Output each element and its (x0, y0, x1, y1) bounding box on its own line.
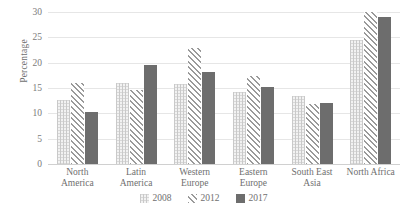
bar-2012 (364, 12, 377, 164)
bar-2012 (130, 90, 143, 164)
x-axis-tick-label: Eastern Europe (224, 167, 283, 189)
y-axis-tick-label: 15 (33, 83, 43, 93)
bar-2017 (320, 103, 333, 164)
bar-2017 (202, 72, 215, 164)
legend-swatch-icon (188, 194, 197, 203)
x-axis-tick-label: South East Asia (283, 167, 342, 189)
bar-2012 (71, 83, 84, 164)
bar-2008 (292, 96, 305, 164)
bar-2012 (247, 76, 260, 164)
y-axis-tick-label: 5 (37, 134, 42, 144)
legend-item-2008[interactable]: 2008 (140, 193, 172, 203)
y-axis-title: Percentage (19, 1, 29, 121)
legend-item-2012[interactable]: 2012 (188, 193, 220, 203)
bar-2008 (233, 92, 246, 164)
bar-group (283, 12, 342, 164)
bar-2008 (57, 100, 70, 164)
bar-2008 (174, 84, 187, 164)
bar-2017 (261, 87, 274, 164)
bar-group (341, 12, 400, 164)
x-axis-tick-label: Latin America (107, 167, 166, 189)
bar-2017 (144, 65, 157, 164)
bar-2017 (85, 112, 98, 164)
bar-2012 (306, 104, 319, 164)
bar-2012 (188, 48, 201, 164)
bar-2008 (116, 83, 129, 164)
y-axis-tick-label: 10 (33, 108, 43, 118)
y-axis-tick-label: 0 (37, 159, 42, 169)
bar-group (107, 12, 166, 164)
legend-label: 2008 (153, 193, 172, 203)
bar-2017 (378, 17, 391, 164)
x-axis-tick-label: North Africa (341, 167, 400, 189)
legend-swatch-icon (236, 194, 245, 203)
legend-item-2017[interactable]: 2017 (236, 193, 268, 203)
bar-chart: Percentage 051015202530 North AmericaLat… (0, 0, 407, 212)
plot-area: 051015202530 (48, 12, 400, 164)
bar-2008 (350, 40, 363, 164)
bar-group (48, 12, 107, 164)
y-axis-tick-label: 30 (33, 7, 43, 17)
x-axis-tick-label: Western Europe (165, 167, 224, 189)
gridline (48, 164, 400, 165)
y-axis-tick-label: 20 (33, 58, 43, 68)
x-axis-tick-label: North America (48, 167, 107, 189)
bar-group (224, 12, 283, 164)
chart-legend: 200820122017 (0, 193, 407, 203)
x-axis-labels: North AmericaLatin AmericaWestern Europe… (48, 167, 400, 189)
bar-groups (48, 12, 400, 164)
legend-label: 2012 (201, 193, 220, 203)
bar-group (165, 12, 224, 164)
legend-swatch-icon (140, 194, 149, 203)
legend-label: 2017 (249, 193, 268, 203)
y-axis-tick-label: 25 (33, 32, 43, 42)
